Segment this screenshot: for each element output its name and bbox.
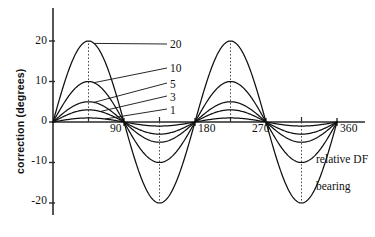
curve-label-20: 20 bbox=[170, 38, 182, 51]
y-tick-label-minus-10: -10 bbox=[17, 154, 47, 167]
leader-line-amplitude-10 bbox=[94, 68, 167, 83]
x-tick-label-360: 360 bbox=[340, 122, 358, 135]
x-tick-label-90: 90 bbox=[110, 122, 122, 135]
chart-figure: correction (degrees) 20 10 0 -10 -20 90 … bbox=[0, 0, 375, 237]
curve-label-1: 1 bbox=[170, 104, 176, 117]
y-tick-label-10: 10 bbox=[22, 74, 47, 87]
chart-plot-area bbox=[0, 0, 375, 237]
leader-line-amplitude-20 bbox=[94, 43, 167, 44]
x-axis-title-line2: bearing bbox=[316, 180, 350, 192]
y-tick-label-20: 20 bbox=[22, 34, 47, 47]
curve-label-3: 3 bbox=[170, 91, 176, 104]
x-tick-label-270: 270 bbox=[252, 122, 270, 135]
curve-label-10: 10 bbox=[170, 62, 182, 75]
leader-lines-layer bbox=[94, 43, 167, 119]
x-axis-title-line1: relative DF bbox=[316, 153, 368, 165]
y-tick-label-0: 0 bbox=[22, 114, 47, 127]
x-axis-title: relative DF bearing bbox=[316, 139, 368, 193]
y-tick-label-minus-20: -20 bbox=[17, 194, 47, 207]
x-tick-label-180: 180 bbox=[198, 122, 216, 135]
curve-label-5: 5 bbox=[170, 78, 176, 91]
